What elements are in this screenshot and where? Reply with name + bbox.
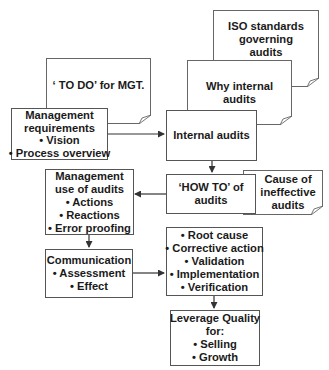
page-curl-icon: [280, 116, 292, 125]
node-text-line: audits: [223, 93, 256, 106]
node-text-line: • Validation: [185, 255, 245, 268]
node-text-line: ‘ TO DO’ for MGT.: [53, 79, 145, 92]
node-text-line: use of audits: [55, 183, 124, 196]
node-management-use-audits: Managementuse of audits• Actions• Reacti…: [45, 169, 134, 235]
node-internal-audits: Internal audits: [166, 110, 257, 161]
node-text-line: • Reactions: [59, 209, 120, 222]
node-text-line: audits: [195, 194, 228, 207]
node-text-line: Why internal: [206, 80, 273, 93]
node-text-line: audits: [250, 46, 283, 59]
node-text-line: • Actions: [66, 196, 114, 209]
node-text-line: Communication: [47, 254, 132, 267]
node-text-line: • Growth: [192, 351, 238, 364]
node-text-line: Cause of: [264, 173, 311, 186]
node-text-line: Management: [55, 170, 123, 183]
node-how-to-audits: ‘HOW TO’ ofaudits: [166, 174, 256, 214]
node-text-line: • Vision: [39, 134, 79, 147]
node-management-requirements: Managementrequirements• Vision• Process …: [11, 108, 108, 160]
node-text-line: for:: [206, 325, 225, 338]
node-text-line: • Selling: [193, 338, 237, 351]
node-text-line: • Verification: [181, 281, 248, 294]
node-text-line: governing: [239, 33, 293, 46]
node-text-line: • Process overview: [9, 147, 111, 160]
node-leverage-quality: Leverage Qualityfor:• Selling• Growth: [170, 310, 260, 366]
node-communication: Communication• Assessment• Effect: [45, 249, 133, 298]
page-curl-icon: [307, 78, 319, 87]
node-text-line: Internal audits: [173, 129, 249, 142]
node-text-line: ‘HOW TO’ of: [178, 181, 243, 194]
page-curl-icon: [139, 115, 151, 124]
node-text-line: Management: [25, 109, 93, 122]
node-root-cause: • Root cause• Corrective action• Validat…: [166, 227, 263, 296]
page-curl-icon: [311, 206, 323, 215]
node-text-line: ISO standards: [228, 20, 304, 33]
node-text-line: • Implementation: [170, 268, 260, 281]
node-text-line: ineffective: [260, 186, 315, 199]
node-text-line: requirements: [24, 122, 95, 135]
node-text-line: Leverage Quality: [170, 312, 260, 325]
node-text-line: • Corrective action: [165, 242, 263, 255]
node-text-line: audits: [272, 199, 305, 212]
node-text-line: • Assessment: [53, 267, 126, 280]
node-text-line: • Root cause: [181, 229, 248, 242]
node-text-line: • Effect: [70, 280, 108, 293]
node-text-line: • Error proofing: [48, 222, 131, 235]
